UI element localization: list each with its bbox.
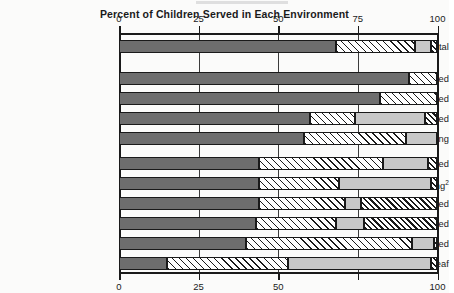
bar-segment (119, 157, 259, 170)
bar-row (119, 92, 438, 105)
bar-segment (119, 197, 259, 210)
x-tick-bottom-50 (278, 272, 280, 280)
bar-segment (355, 112, 425, 125)
x-tick-label-bottom-50: 50 (258, 281, 298, 292)
x-tick-label-bottom-25: 25 (179, 281, 219, 292)
x-tick-label-top-75: 75 (338, 13, 378, 24)
bar-segment (345, 197, 361, 210)
bar-segment (119, 112, 310, 125)
bar-row (119, 237, 438, 250)
bar-row (119, 157, 438, 170)
x-tick-bottom-0 (119, 272, 121, 280)
bar-segment (431, 177, 437, 190)
bar-segment (259, 157, 383, 170)
bar-row (119, 177, 438, 190)
x-tick-bottom-75 (358, 272, 360, 280)
x-tick-label-top-25: 25 (179, 13, 219, 24)
bar-segment (304, 132, 406, 145)
bar-segment (428, 157, 438, 170)
bar-segment (119, 92, 380, 105)
bar-segment (119, 40, 336, 53)
bar-segment (119, 237, 246, 250)
bar-segment (167, 257, 288, 270)
bar-segment (336, 217, 365, 230)
bar-segment (409, 72, 438, 85)
bar-row (119, 132, 438, 145)
bar-segment (336, 40, 416, 53)
bar-segment (425, 112, 438, 125)
x-tick-top-0 (119, 26, 121, 34)
bar-segment (434, 237, 437, 250)
bar-segment (415, 40, 431, 53)
bar-segment (119, 72, 409, 85)
bar-segment (246, 237, 412, 250)
bar-segment (364, 217, 437, 230)
bar-segment (259, 197, 345, 210)
bar-segment (119, 257, 167, 270)
x-tick-label-top-50: 50 (258, 13, 298, 24)
bar-segment (259, 177, 339, 190)
bar-row (119, 72, 438, 85)
bar-segment (288, 257, 431, 270)
category-label-footnote: 2 (445, 179, 449, 186)
bar-segment (119, 217, 256, 230)
bar-segment (431, 257, 437, 270)
bar-row (119, 257, 438, 270)
bar-segment (380, 92, 437, 105)
bar-segment (119, 132, 304, 145)
x-tick-top-100 (438, 26, 440, 34)
x-tick-label-bottom-100: 100 (418, 281, 454, 292)
x-tick-bottom-100 (438, 272, 440, 280)
x-tick-label-top-100: 100 (418, 13, 454, 24)
bar-row (119, 197, 438, 210)
bar-segment (361, 197, 437, 210)
bar-segment (431, 40, 437, 53)
bar-segment (383, 157, 428, 170)
bar-row (119, 112, 438, 125)
bar-segment (339, 177, 431, 190)
bar-segment (256, 217, 336, 230)
bar-row (119, 40, 438, 53)
bar-segment (406, 132, 438, 145)
x-tick-bottom-25 (199, 272, 201, 280)
bar-segment (119, 177, 259, 190)
bar-row (119, 217, 438, 230)
bar-segment (412, 237, 434, 250)
x-tick-label-top-0: 0 (99, 13, 139, 24)
chart-title: Percent of Children Served in Each Envir… (0, 8, 449, 20)
bar-segment (310, 112, 355, 125)
scan-artifact (196, 1, 288, 4)
x-tick-label-bottom-0: 0 (99, 281, 139, 292)
